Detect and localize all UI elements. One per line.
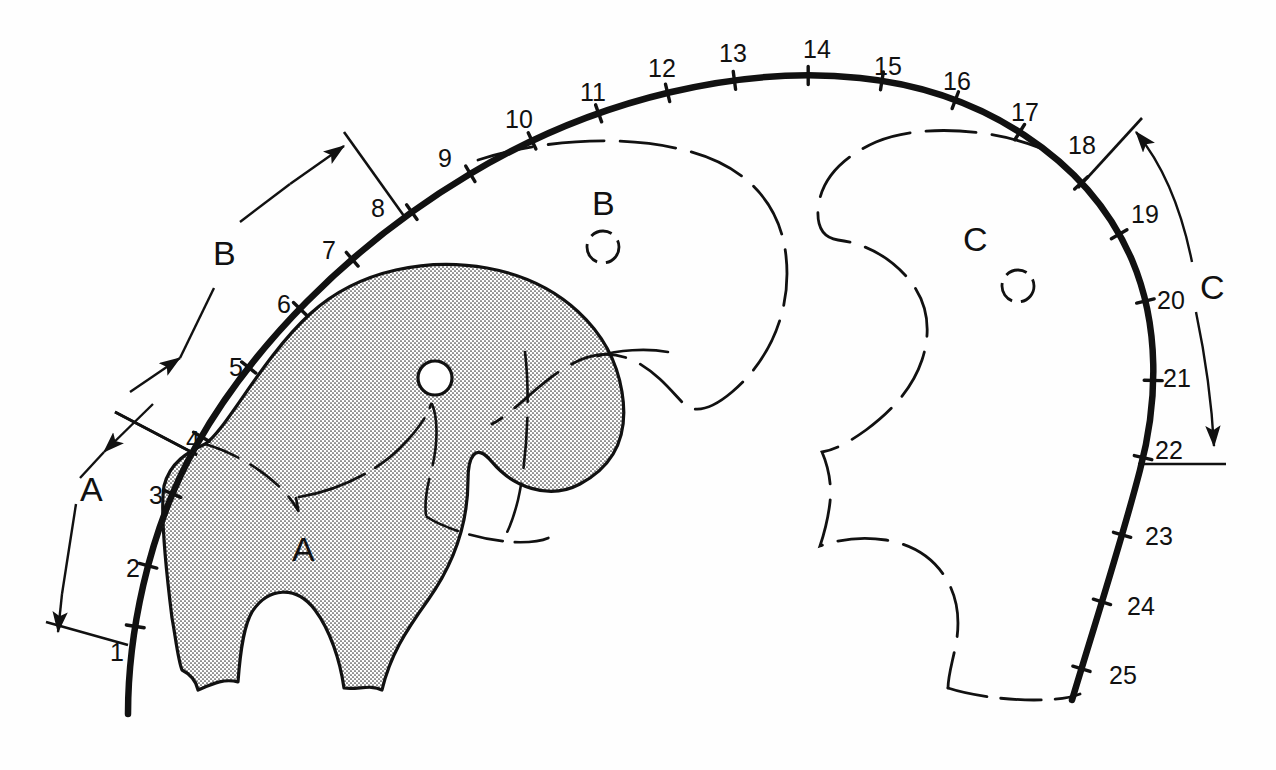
tick-label-19: 19 — [1131, 202, 1159, 227]
dim-c-arrow-lower — [1196, 312, 1214, 446]
dim-a-leader-lower — [62, 504, 76, 594]
region-c-hole-icon — [1002, 270, 1034, 302]
region-label-b: B — [592, 186, 615, 220]
arc-station-diagram — [0, 0, 1276, 770]
station-tick-14 — [802, 66, 814, 84]
station-tick-12 — [660, 83, 676, 103]
station-tick-2 — [138, 558, 158, 574]
tick-label-20: 20 — [1157, 288, 1185, 313]
station-tick-1 — [125, 619, 145, 634]
tick-label-24: 24 — [1127, 594, 1155, 619]
tick-label-22: 22 — [1155, 438, 1183, 463]
tick-label-25: 25 — [1109, 663, 1137, 688]
tick-label-6: 6 — [277, 292, 291, 317]
region-label-c: C — [963, 222, 988, 256]
dim-b-leader-lower — [180, 288, 214, 358]
tick-label-1: 1 — [110, 640, 124, 665]
tick-label-18: 18 — [1068, 133, 1096, 158]
tick-label-17: 17 — [1011, 100, 1039, 125]
tick-label-23: 23 — [1145, 524, 1173, 549]
dim-b-arrow-lower — [130, 358, 180, 392]
station-tick-24 — [1092, 594, 1113, 611]
region-c-outline — [818, 131, 1040, 688]
tick-label-10: 10 — [505, 107, 533, 132]
dim-c-arrow-upper — [1136, 132, 1192, 262]
region-c-shape — [818, 131, 1080, 700]
region-c-outline-bottom — [948, 688, 1080, 700]
tick-label-21: 21 — [1163, 366, 1191, 391]
tick-label-12: 12 — [648, 56, 676, 81]
region-label-a: A — [292, 532, 315, 566]
dimension-label-b: B — [213, 236, 236, 270]
tick-label-4: 4 — [186, 428, 200, 453]
dimension-label-c: C — [1200, 270, 1225, 304]
tick-label-14: 14 — [803, 37, 831, 62]
tick-label-16: 16 — [943, 69, 971, 94]
dim-b-leader-upper — [240, 184, 290, 222]
tick-label-5: 5 — [229, 355, 243, 380]
region-a-outline — [163, 264, 624, 690]
tick-label-8: 8 — [371, 196, 385, 221]
region-a-hole-icon — [418, 361, 452, 395]
tick-label-3: 3 — [149, 483, 163, 508]
region-b-hole-icon — [587, 231, 619, 263]
station-tick-21 — [1144, 374, 1162, 386]
station-tick-13 — [727, 71, 741, 90]
dim-b-extension-low — [115, 412, 197, 455]
station-tick-23 — [1112, 527, 1133, 544]
tick-label-11: 11 — [580, 80, 606, 105]
tick-label-15: 15 — [874, 54, 902, 79]
tick-label-9: 9 — [438, 146, 452, 171]
tick-label-7: 7 — [322, 238, 336, 263]
station-tick-20 — [1135, 293, 1155, 309]
station-tick-25 — [1071, 660, 1092, 677]
region-a-shape — [163, 264, 668, 690]
dim-b-arrow-upper — [290, 146, 344, 184]
tick-label-13: 13 — [719, 41, 747, 66]
dimension-label-a: A — [80, 472, 103, 506]
station-tick-11 — [590, 103, 607, 124]
tick-label-2: 2 — [126, 556, 140, 581]
diagram-canvas: 1 2 3 4 5 6 7 8 9 10 11 12 13 14 15 16 1… — [0, 0, 1276, 770]
